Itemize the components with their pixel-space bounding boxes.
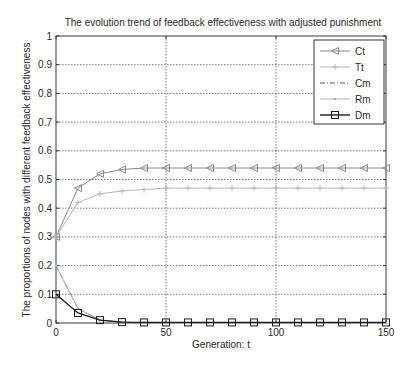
series-dm	[53, 291, 390, 326]
data-point-tt	[317, 185, 323, 191]
data-point-tt	[163, 185, 169, 191]
y-tick-label: 0.6	[38, 145, 52, 156]
x-tick-label: 0	[53, 327, 59, 338]
data-point-tt	[295, 185, 301, 191]
data-point-tt	[119, 188, 125, 194]
chart: The evolution trend of feedback effectiv…	[0, 0, 420, 366]
data-point-tt	[229, 185, 235, 191]
legend-label: Tt	[355, 62, 364, 73]
y-tick-label: 0.3	[38, 231, 52, 242]
x-tick-label: 150	[378, 327, 395, 338]
data-point-tt	[251, 185, 257, 191]
y-tick-label: 0.9	[38, 59, 52, 70]
y-tick-label: 0.2	[38, 260, 52, 271]
legend-label: Rm	[355, 94, 371, 105]
series-ct	[53, 165, 390, 241]
x-tick-label: 50	[160, 327, 172, 338]
data-point-tt	[383, 185, 389, 191]
data-point-tt	[141, 187, 147, 193]
data-point-tt	[207, 185, 213, 191]
series-line-tt	[56, 188, 386, 237]
y-tick-label: 1	[46, 31, 52, 42]
x-axis-label: Generation: t	[192, 339, 250, 350]
chart-title: The evolution trend of feedback effectiv…	[65, 17, 382, 28]
legend-box	[314, 40, 384, 124]
series-tt	[53, 185, 389, 240]
legend: CtTtCmRmDm	[314, 40, 384, 124]
data-point-tt	[97, 191, 103, 197]
y-tick-label: 0.4	[38, 203, 52, 214]
legend-marker	[334, 98, 337, 101]
legend-label: Dm	[355, 110, 371, 121]
y-axis-label: The proportions of nodes with different …	[21, 43, 32, 318]
y-tick-label: 0.1	[38, 289, 52, 300]
data-point-tt	[75, 199, 81, 205]
y-tick-label: 0.5	[38, 174, 52, 185]
series-group	[53, 165, 390, 326]
data-point-tt	[273, 185, 279, 191]
data-point-tt	[361, 185, 367, 191]
data-point-tt	[339, 185, 345, 191]
data-point-tt	[53, 234, 59, 240]
y-tick-label: 0.7	[38, 117, 52, 128]
legend-label: Ct	[355, 46, 365, 57]
x-tick-label: 100	[268, 327, 285, 338]
legend-label: Cm	[355, 78, 371, 89]
series-line-dm	[56, 294, 386, 322]
series-line-ct	[56, 168, 386, 237]
y-tick-label: 0.8	[38, 88, 52, 99]
y-tick-label: 0	[46, 318, 52, 329]
data-point-rm	[55, 264, 58, 267]
data-point-tt	[185, 185, 191, 191]
